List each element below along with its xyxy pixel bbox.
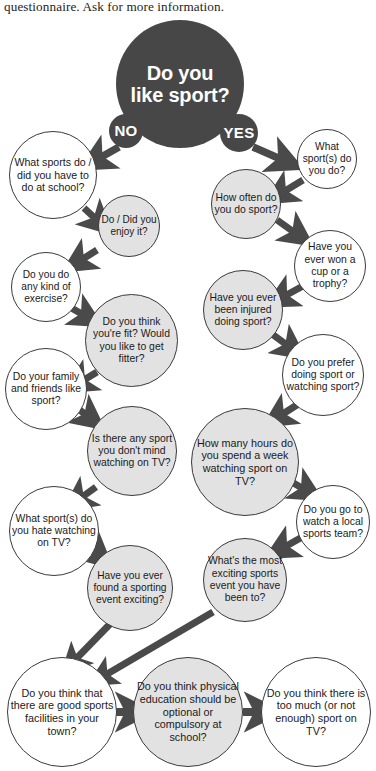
node-l3-label: Do you do any kind of exercise? — [14, 269, 78, 305]
node-b1-label: Do you think that there are good sports … — [10, 687, 114, 738]
node-r8[interactable]: What's the most exciting sports event yo… — [203, 538, 287, 622]
node-b3-label: Do you think there is too much (or not e… — [264, 687, 368, 738]
node-l6-label: Is there any sport you don't mind watchi… — [90, 433, 174, 470]
node-r6[interactable]: How many hours do you spend a week watch… — [191, 408, 299, 516]
node-r6-label: How many hours do you spend a week watch… — [194, 437, 296, 488]
node-l7-label: What sport(s) do you hate watching on TV… — [12, 513, 96, 550]
node-l8-label: Have you ever found a sporting event exc… — [90, 570, 170, 606]
node-b3[interactable]: Do you think there is too much (or not e… — [261, 657, 371, 767]
node-l1[interactable]: What sports do / did you have to do at s… — [9, 131, 97, 219]
node-r1[interactable]: What sport(s) do you do? — [297, 129, 357, 189]
node-l2[interactable]: Do / Did you enjoy it? — [98, 195, 160, 257]
node-r7[interactable]: Do you go to watch a local sports team? — [296, 485, 370, 559]
node-r5-label: Do you prefer doing sport or watching sp… — [285, 357, 361, 394]
branch-badge-no[interactable]: NO — [109, 114, 143, 148]
node-l2-label: Do / Did you enjoy it? — [101, 214, 157, 238]
node-r8-label: What's the most exciting sports event yo… — [206, 555, 284, 604]
branch-badge-yes[interactable]: YES — [220, 114, 258, 152]
node-l7[interactable]: What sport(s) do you hate watching on TV… — [9, 486, 99, 576]
node-root-label: Do youlike sport? — [118, 62, 242, 107]
node-l5[interactable]: Do your family and friends like sport? — [5, 348, 87, 430]
node-l3[interactable]: Do you do any kind of exercise? — [11, 252, 81, 322]
node-l4[interactable]: Do you think you're fit? Would you like … — [85, 294, 178, 387]
node-b2-label: Do you think physical education should b… — [136, 680, 240, 744]
node-r7-label: Do you go to watch a local sports team? — [299, 504, 367, 541]
node-r5[interactable]: Do you prefer doing sport or watching sp… — [282, 334, 364, 416]
node-l8[interactable]: Have you ever found a sporting event exc… — [87, 545, 173, 631]
node-l6[interactable]: Is there any sport you don't mind watchi… — [87, 406, 177, 496]
flowchart-canvas: questionnaire. Ask for more information. — [0, 0, 376, 771]
node-r4[interactable]: Have you ever been injured doing sport? — [203, 270, 283, 350]
node-l1-label: What sports do / did you have to do at s… — [12, 156, 94, 194]
node-l5-label: Do your family and friends like sport? — [8, 371, 84, 408]
node-r1-label: What sport(s) do you do? — [300, 141, 354, 177]
node-r2-label: How often do you do sport? — [214, 192, 278, 217]
node-r3-label: Have you ever won a cup or a trophy? — [297, 241, 363, 290]
node-l4-label: Do you think you're fit? Would you like … — [88, 316, 175, 365]
node-r2[interactable]: How often do you do sport? — [211, 169, 281, 239]
branch-badge-no-label: NO — [111, 122, 141, 140]
node-r3[interactable]: Have you ever won a cup or a trophy? — [294, 230, 366, 302]
node-b1[interactable]: Do you think that there are good sports … — [7, 657, 117, 767]
node-b2[interactable]: Do you think physical education should b… — [133, 657, 243, 767]
node-r4-label: Have you ever been injured doing sport? — [206, 292, 280, 329]
branch-badge-yes-label: YES — [222, 124, 256, 142]
